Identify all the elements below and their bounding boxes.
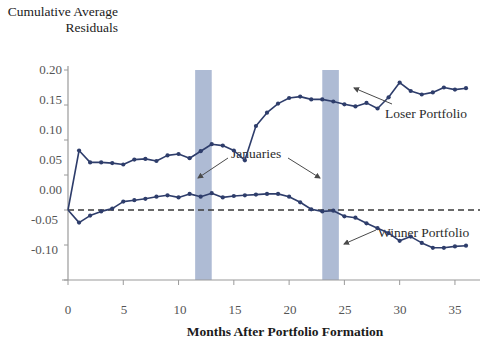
- data-point: [420, 241, 424, 245]
- series-line-winner-portfolio: [68, 193, 466, 248]
- data-point: [243, 158, 247, 162]
- data-point: [99, 209, 103, 213]
- data-point: [243, 193, 247, 197]
- data-point: [309, 97, 313, 101]
- data-point: [464, 244, 468, 248]
- data-point: [276, 192, 280, 196]
- data-point: [398, 81, 402, 85]
- data-point: [431, 90, 435, 94]
- data-point: [320, 97, 324, 101]
- chart-axes: [62, 66, 480, 285]
- data-point: [387, 95, 391, 99]
- january-band-0: [195, 70, 212, 280]
- data-point: [188, 156, 192, 160]
- data-point: [298, 95, 302, 99]
- data-point: [165, 193, 169, 197]
- data-point: [99, 160, 103, 164]
- chart-container: Cumulative Average Residuals 0.20 0.15 0…: [0, 0, 499, 349]
- data-point: [331, 209, 335, 213]
- data-point: [77, 221, 81, 225]
- data-point: [221, 144, 225, 148]
- data-point: [154, 195, 158, 199]
- data-point: [375, 226, 379, 230]
- chart-plot-area: [0, 0, 499, 349]
- data-point: [309, 207, 313, 211]
- data-point: [121, 162, 125, 166]
- arrow-winner-portfolio: [344, 230, 376, 244]
- data-point: [353, 104, 357, 108]
- data-point: [176, 195, 180, 199]
- data-point: [364, 221, 368, 225]
- arrow-januaries-right: [288, 158, 320, 178]
- data-point: [431, 246, 435, 250]
- data-point: [398, 239, 402, 243]
- data-point: [232, 148, 236, 152]
- data-point: [77, 148, 81, 152]
- data-point: [199, 195, 203, 199]
- data-point: [342, 102, 346, 106]
- data-point: [265, 192, 269, 196]
- data-point: [110, 207, 114, 211]
- data-point: [88, 160, 92, 164]
- data-point: [453, 88, 457, 92]
- data-point: [210, 191, 214, 195]
- series-line-loser-portfolio: [68, 83, 466, 210]
- data-point: [364, 101, 368, 105]
- data-point: [199, 149, 203, 153]
- data-point: [409, 89, 413, 93]
- january-shaded-bands: [195, 70, 339, 280]
- data-point: [254, 193, 258, 197]
- data-point: [132, 158, 136, 162]
- data-point: [265, 111, 269, 115]
- data-point: [453, 244, 457, 248]
- data-point: [210, 142, 214, 146]
- data-point: [353, 216, 357, 220]
- data-point: [442, 85, 446, 89]
- data-point: [387, 231, 391, 235]
- data-point: [88, 214, 92, 218]
- data-point: [188, 192, 192, 196]
- data-point: [121, 200, 125, 204]
- data-point: [165, 153, 169, 157]
- data-point: [254, 124, 258, 128]
- data-point: [110, 161, 114, 165]
- data-point: [320, 209, 324, 213]
- data-point: [287, 96, 291, 100]
- data-point: [232, 194, 236, 198]
- data-point: [442, 246, 446, 250]
- data-point: [176, 152, 180, 156]
- data-point: [276, 102, 280, 106]
- data-point: [154, 159, 158, 163]
- chart-series-layer: [68, 81, 468, 250]
- arrow-loser-portfolio: [354, 88, 392, 104]
- data-point: [342, 214, 346, 218]
- data-point: [409, 235, 413, 239]
- data-point: [464, 86, 468, 90]
- data-point: [143, 157, 147, 161]
- data-point: [287, 195, 291, 199]
- data-point: [143, 197, 147, 201]
- data-point: [331, 99, 335, 103]
- data-point: [221, 195, 225, 199]
- data-point: [375, 106, 379, 110]
- data-point: [132, 198, 136, 202]
- data-point: [298, 200, 302, 204]
- data-point: [420, 92, 424, 96]
